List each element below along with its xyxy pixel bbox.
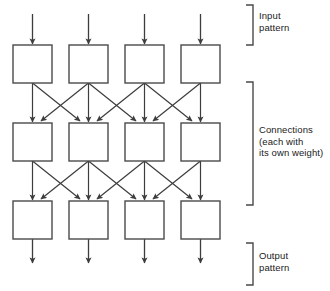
connection-group-hidden-to-output (33, 161, 201, 200)
node-box-r2-c1 (69, 201, 108, 239)
node-box-r0-c1 (69, 45, 108, 83)
node-box-r1-c3 (181, 123, 220, 161)
input-layer-nodes (13, 45, 220, 83)
connection-diagonal-1-3-to-4 (145, 83, 193, 121)
node-box-r0-c2 (125, 45, 164, 83)
node-box-r2-c2 (125, 201, 164, 239)
diagram-canvas: Input pattern Connections (each with its… (0, 0, 330, 291)
hidden-layer-nodes (13, 123, 220, 161)
connection-diagonal-2-4-to-3 (153, 161, 201, 199)
node-box-r1-c0 (13, 123, 52, 161)
connection-diagonal-1-2-to-3 (89, 83, 137, 121)
input-arrow-group (33, 14, 201, 44)
connection-diagonal-2-2-to-1 (41, 161, 89, 199)
connection-diagonal-2-3-to-4 (145, 161, 193, 199)
node-box-r2-c3 (181, 201, 220, 239)
output-arrow-group (33, 239, 201, 263)
connection-diagonal-2-2-to-3 (89, 161, 137, 199)
node-box-r1-c1 (69, 123, 108, 161)
output-layer-nodes (13, 201, 220, 239)
connections-bracket (246, 82, 253, 205)
input-bracket (246, 5, 253, 45)
node-box-r0-c0 (13, 45, 52, 83)
node-box-r2-c0 (13, 201, 52, 239)
output-bracket (246, 243, 253, 285)
connection-diagonal-2-3-to-2 (97, 161, 145, 199)
node-box-r1-c2 (125, 123, 164, 161)
output-pattern-label: Output pattern (259, 250, 289, 273)
node-box-r0-c3 (181, 45, 220, 83)
connection-group-input-to-hidden (33, 83, 201, 122)
connection-diagonal-1-2-to-1 (41, 83, 89, 121)
connections-label: Connections (each with its own weight) (259, 124, 323, 159)
connection-diagonal-2-1-to-2 (33, 161, 81, 199)
bracket-group (246, 5, 253, 285)
input-pattern-label: Input pattern (259, 10, 289, 33)
connection-diagonal-1-3-to-2 (97, 83, 145, 121)
connection-diagonal-1-1-to-2 (33, 83, 81, 121)
connection-diagonal-1-4-to-3 (153, 83, 201, 121)
